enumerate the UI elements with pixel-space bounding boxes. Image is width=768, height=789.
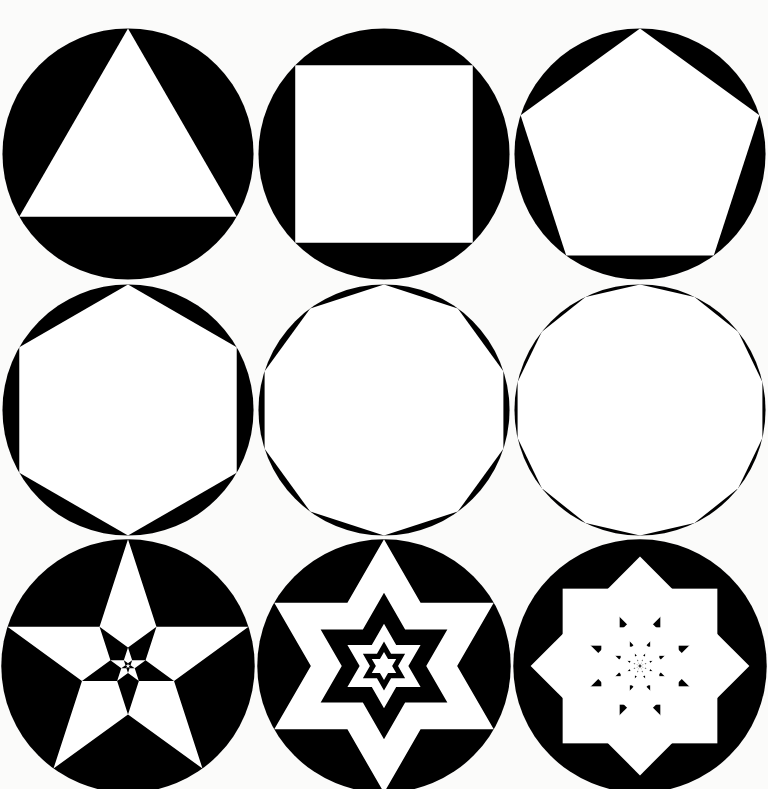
- hexagon-in-circle-svg: [0, 282, 256, 538]
- cell-decagon-in-circle: [256, 282, 512, 538]
- tetradecagon-in-circle-svg: [512, 282, 768, 538]
- top-margin: [0, 0, 768, 26]
- recursive-octagram-squares-svg: [512, 538, 768, 789]
- figure-canvas: [0, 0, 768, 789]
- cell-recursive-octagram-squares: [512, 538, 768, 789]
- pentagon-in-circle-svg: [512, 26, 768, 282]
- cell-tetradecagon-in-circle: [512, 282, 768, 538]
- square-in-circle-svg: [256, 26, 512, 282]
- cell-triangle-in-circle: [0, 26, 256, 282]
- recursive-hexagram-svg: [256, 538, 512, 789]
- cell-recursive-pentagram: [0, 538, 256, 789]
- cell-hexagon-in-circle: [0, 282, 256, 538]
- cell-square-in-circle: [256, 26, 512, 282]
- triangle-in-circle-svg: [0, 26, 256, 282]
- decagon-in-circle-svg: [256, 282, 512, 538]
- figure-grid: [0, 0, 768, 789]
- cell-pentagon-in-circle: [512, 26, 768, 282]
- cell-recursive-hexagram: [256, 538, 512, 789]
- recursive-pentagram-svg: [0, 538, 256, 789]
